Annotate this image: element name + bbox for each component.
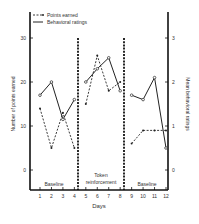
data-point [73, 98, 76, 101]
data-point [165, 129, 167, 131]
data-point [165, 147, 168, 150]
x-tick-label: 2 [50, 193, 53, 199]
legend: Points earnedBehavioral ratings [33, 12, 88, 25]
plot-area [39, 55, 168, 150]
series-line [132, 130, 166, 143]
data-point [108, 90, 110, 92]
data-point [119, 90, 122, 93]
x-tick-label: 6 [96, 193, 99, 199]
phase-label: Baseline [44, 181, 63, 187]
data-point [130, 94, 133, 97]
data-point [119, 81, 121, 83]
phase-label: Token [94, 172, 108, 178]
legend-label: Points earned [47, 12, 78, 18]
x-tick-label: 10 [140, 193, 146, 199]
data-point [107, 57, 110, 60]
data-point [50, 147, 52, 149]
data-point [62, 112, 64, 114]
y-tick-label: 30 [20, 35, 26, 41]
y-tick-label-right: 3 [172, 35, 175, 41]
legend-label: Behavioral ratings [47, 19, 88, 25]
legend-marker [42, 14, 44, 16]
series-line [40, 82, 74, 119]
series-line [40, 108, 74, 148]
x-tick-label: 12 [163, 193, 169, 199]
axes: 01020300123123456789101112BaselineTokenr… [20, 12, 175, 199]
y-tick-label: 20 [20, 79, 26, 85]
x-tick-label: 4 [73, 193, 76, 199]
x-tick-label: 9 [130, 193, 133, 199]
x-tick-label: 1 [39, 193, 42, 199]
x-tick-label: 7 [107, 193, 110, 199]
data-point [142, 98, 145, 101]
y-axis-label-right: Mean behavioral ratings [185, 77, 191, 131]
data-point [39, 107, 41, 109]
data-point [153, 76, 156, 79]
data-point [50, 81, 53, 84]
data-point [39, 94, 42, 97]
x-tick-label: 8 [119, 193, 122, 199]
data-point [85, 103, 87, 105]
x-tick-label: 11 [152, 193, 157, 199]
data-point [142, 129, 144, 131]
y-axis-label-left: Number of points earned [10, 76, 16, 131]
data-point [73, 147, 75, 149]
y-tick-label-right: 1 [172, 123, 175, 129]
y-tick-label-right: 0 [172, 167, 175, 173]
data-point [131, 143, 133, 145]
data-point [62, 118, 65, 121]
behavior-chart: 01020300123123456789101112BaselineTokenr… [0, 0, 199, 224]
data-point [96, 68, 99, 71]
y-tick-label-right: 2 [172, 79, 175, 85]
data-point [154, 129, 156, 131]
phase-label: Baseline [137, 181, 156, 187]
data-point [85, 81, 88, 84]
data-point [96, 55, 98, 57]
phase-label: reinforcement [86, 179, 117, 185]
x-axis-label: Days [92, 203, 106, 209]
x-tick-label: 5 [84, 193, 87, 199]
x-tick-label: 3 [62, 193, 65, 199]
y-tick-label: 10 [20, 123, 26, 129]
y-tick-label: 0 [23, 167, 26, 173]
